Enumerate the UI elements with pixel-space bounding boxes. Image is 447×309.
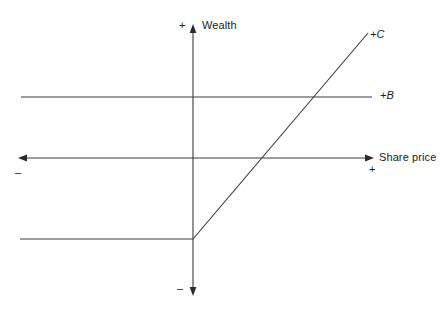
payoff-line-c-label: +C: [370, 29, 385, 40]
payoff-line-b-label: +B: [380, 90, 394, 101]
y-axis-negative-sign: –: [177, 283, 183, 294]
x-axis-left-arrowhead: [18, 155, 27, 162]
y-axis-label: Wealth: [202, 20, 237, 31]
payoff-line-c: [20, 33, 368, 239]
x-axis-negative-sign: –: [15, 167, 21, 178]
x-axis-label: Share price: [379, 152, 436, 163]
y-axis-down-arrowhead: [190, 287, 197, 296]
x-axis-positive-sign: +: [369, 164, 375, 175]
y-axis-up-arrowhead: [190, 24, 197, 33]
payoff-diagram-figure: + Wealth – Share price + – +B +C: [0, 0, 447, 309]
x-axis-right-arrowhead: [365, 155, 374, 162]
y-axis-wealth: [190, 24, 197, 296]
x-axis-share-price: [18, 155, 374, 162]
y-axis-positive-sign: +: [179, 20, 185, 31]
